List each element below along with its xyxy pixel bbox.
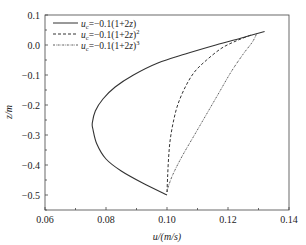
y-tick-label: −0.4 <box>22 160 40 171</box>
y-tick-label: 0.0 <box>28 40 41 51</box>
legend-entry-3: uc=−0.1(1+2z)3 <box>81 39 139 52</box>
x-tick-label: 0.14 <box>280 214 298 225</box>
x-axis-label: u/(m/s) <box>153 231 182 243</box>
legend-entry-2: uc=−0.1(1+2z)2 <box>81 28 139 41</box>
y-tick-label: −0.1 <box>22 70 40 81</box>
x-tick-label: 0.12 <box>219 214 237 225</box>
curve-series-1 <box>92 32 265 196</box>
x-tick-label: 0.06 <box>36 214 54 225</box>
y-tick-label: 0.1 <box>28 10 41 21</box>
legend-entry-1: uc=−0.1(1+2z) <box>81 19 136 30</box>
x-tick-label: 0.08 <box>97 214 115 225</box>
y-axis-label: z/m <box>3 105 14 120</box>
curve-series-2 <box>167 35 252 193</box>
y-tick-label: −0.2 <box>22 100 40 111</box>
y-tick-label: −0.3 <box>22 130 40 141</box>
legend: uc=−0.1(1+2z) uc=−0.1(1+2z)2 uc=−0.1(1+2… <box>53 19 139 52</box>
y-tick-label: −0.5 <box>22 190 40 201</box>
chart: 0.06 0.08 0.10 0.12 0.14 0.1 0.0 −0.1 −0… <box>0 0 306 245</box>
curves <box>92 32 265 196</box>
curve-series-3 <box>167 33 257 192</box>
x-tick-label: 0.10 <box>158 214 176 225</box>
